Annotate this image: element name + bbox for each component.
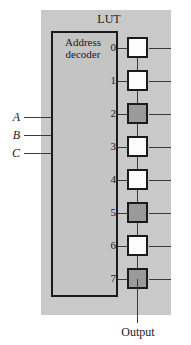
lut-cell-5[interactable] — [127, 202, 148, 223]
cell-stub-5 — [149, 213, 171, 214]
lut-diagram: LUT Address decoder A B C 0 1 2 3 4 5 6 … — [0, 0, 191, 345]
cell-stub-2 — [149, 114, 171, 115]
lut-cell-0[interactable] — [127, 37, 148, 58]
output-label: Output — [108, 325, 168, 340]
lut-cell-4[interactable] — [127, 169, 148, 190]
row-wire-0 — [118, 48, 127, 49]
row-index-3: 3 — [104, 140, 116, 152]
row-wire-5 — [118, 213, 127, 214]
lut-cell-1[interactable] — [127, 70, 148, 91]
row-wire-7 — [118, 279, 127, 280]
row-index-7: 7 — [104, 272, 116, 284]
row-index-4: 4 — [104, 173, 116, 185]
address-decoder-label-line2: decoder — [55, 48, 111, 60]
row-wire-3 — [118, 147, 127, 148]
row-index-1: 1 — [104, 74, 116, 86]
cell-stub-1 — [149, 81, 171, 82]
row-wire-2 — [118, 114, 127, 115]
row-index-0: 0 — [104, 41, 116, 53]
address-decoder-box — [51, 31, 118, 297]
cell-stub-0 — [149, 48, 171, 49]
row-index-6: 6 — [104, 239, 116, 251]
row-index-5: 5 — [104, 206, 116, 218]
lut-cell-6[interactable] — [127, 235, 148, 256]
lut-title-label: LUT — [84, 12, 134, 27]
row-wire-6 — [118, 246, 127, 247]
cell-stub-7 — [149, 279, 171, 280]
row-wire-1 — [118, 81, 127, 82]
address-decoder-label-line1: Address — [55, 36, 111, 48]
lut-cell-2[interactable] — [127, 103, 148, 124]
row-wire-4 — [118, 180, 127, 181]
cell-stub-3 — [149, 147, 171, 148]
input-wire-c — [24, 153, 51, 154]
input-label-c: C — [6, 146, 20, 161]
lut-cell-3[interactable] — [127, 136, 148, 157]
input-wire-a — [24, 117, 51, 118]
cell-stub-6 — [149, 246, 171, 247]
input-label-a: A — [6, 110, 20, 125]
output-wire — [137, 279, 138, 323]
row-index-2: 2 — [104, 107, 116, 119]
address-decoder-label: Address decoder — [55, 36, 111, 60]
input-label-b: B — [6, 128, 20, 143]
cell-stub-4 — [149, 180, 171, 181]
input-wire-b — [24, 135, 51, 136]
